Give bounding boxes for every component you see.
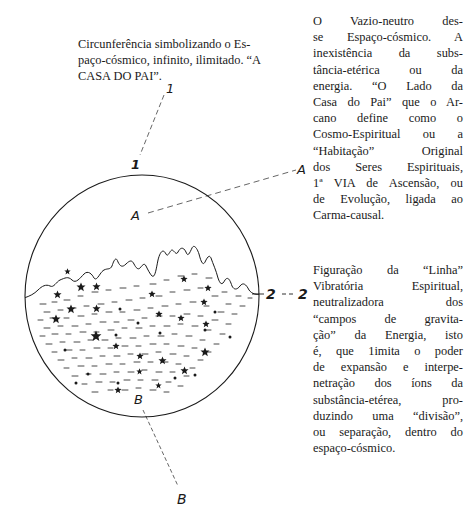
label-2-inner: 2 <box>266 286 276 302</box>
vibratory-line <box>24 246 262 298</box>
star-icons <box>52 268 212 393</box>
cosmic-space-circle <box>25 175 259 417</box>
label-2-outer: 2 <box>298 286 308 302</box>
etheric-substance-region <box>24 246 262 393</box>
label-1-outer: 1 <box>166 81 174 96</box>
cosmic-circle-diagram: 1 1 A A 2 2 B B <box>0 0 468 528</box>
label-a-outer: A <box>296 162 306 177</box>
leader-line-b <box>143 410 178 486</box>
label-a-inner: A <box>130 208 140 223</box>
label-1-inner: 1 <box>131 157 140 172</box>
label-b-inner: B <box>134 392 143 407</box>
leader-line-a <box>148 170 296 213</box>
label-b-outer: B <box>177 491 187 507</box>
leader-line-1 <box>140 95 164 155</box>
